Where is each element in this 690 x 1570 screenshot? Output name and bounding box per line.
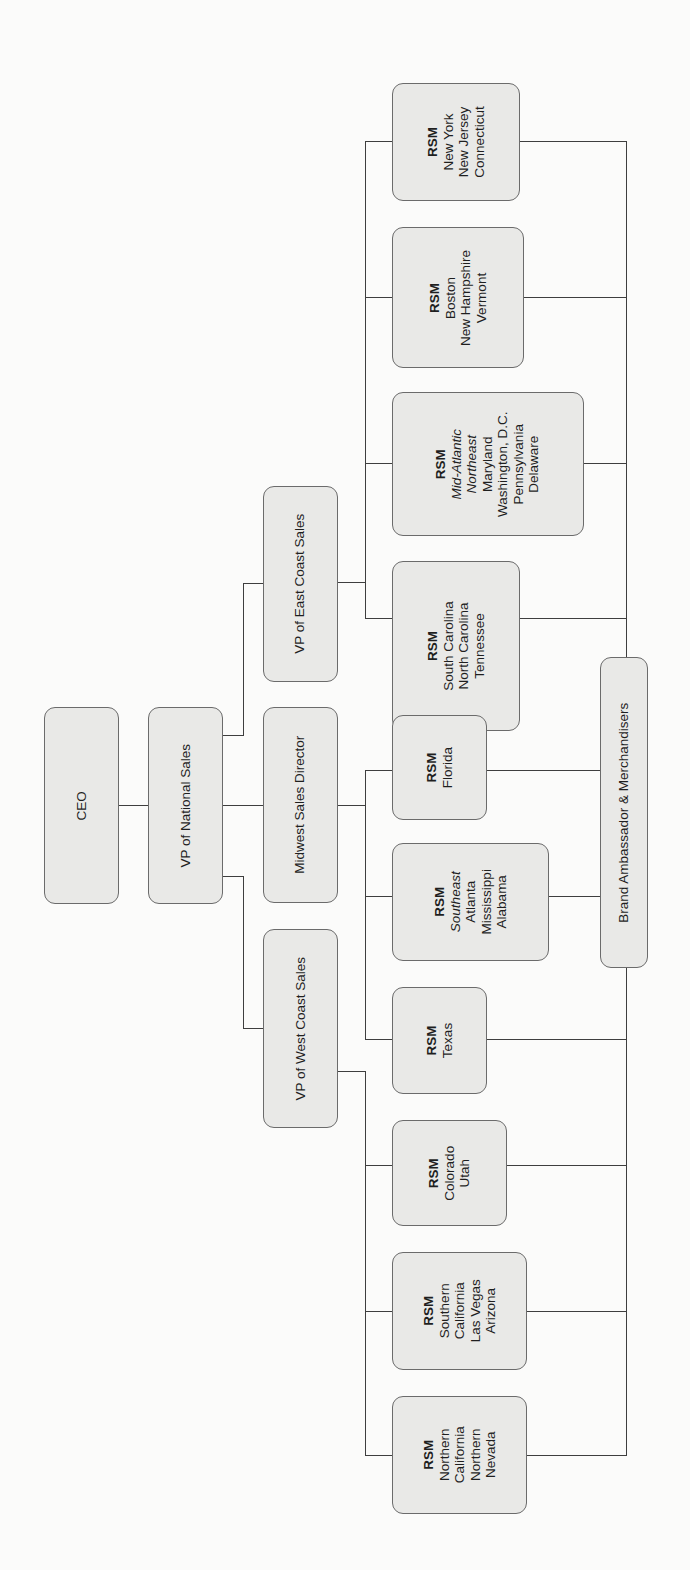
rsm-colorado-box: RSM Colorado Utah <box>392 1120 507 1226</box>
connector-national-east-v <box>243 583 244 736</box>
region-line: Las Vegas <box>467 1279 483 1342</box>
rsm-socal-box: RSM Southern California Las Vegas Arizon… <box>392 1252 527 1370</box>
region-line: Tennessee <box>472 601 488 690</box>
connector-midwest-out <box>338 805 365 806</box>
connector-east-out <box>338 582 365 583</box>
rsm-title: RSM <box>425 601 441 690</box>
region-line: Southern <box>436 1279 452 1342</box>
region-line: California <box>452 1279 468 1342</box>
region-line: Washington, D.C. <box>496 411 512 516</box>
brand-label: Brand Ambassador & Merchandisers <box>616 703 632 923</box>
rsm-texas-box: RSM Texas <box>392 987 487 1094</box>
region-line: Arizona <box>483 1279 499 1342</box>
region-line: Florida <box>439 747 455 788</box>
connector-west-colorado <box>365 1165 392 1166</box>
region-line: Northern <box>436 1426 452 1483</box>
rsm-title: RSM <box>421 1279 437 1342</box>
connector-norcal-brand <box>527 1455 626 1456</box>
rsm-title: RSM <box>432 869 448 934</box>
connector-east-boston <box>365 297 392 298</box>
region-line: New Jersey <box>456 106 472 177</box>
connector-midwest-texas <box>365 1039 392 1040</box>
connector-florida-brand <box>487 770 600 771</box>
rsm-florida-box: RSM Florida <box>392 715 487 820</box>
connector-west-out <box>338 1071 365 1072</box>
region-line: South Carolina <box>441 601 457 690</box>
region-line: Vermont <box>474 249 490 345</box>
region-line: California <box>452 1426 468 1483</box>
connector-national-west <box>223 876 243 877</box>
rsm-sc-box: RSM South Carolina North Carolina Tennes… <box>392 561 520 731</box>
region-line: Colorado <box>442 1146 458 1201</box>
connector-texas-brand <box>487 1039 626 1040</box>
connector-colorado-brand <box>507 1165 626 1166</box>
connector-national-west-v <box>243 876 244 1028</box>
midwest-label: Midwest Sales Director <box>293 736 309 874</box>
vp-west-label: VP of West Coast Sales <box>293 957 309 1101</box>
rsm-title: RSM <box>426 1146 442 1201</box>
rsm-ny-box: RSM New York New Jersey Connecticut <box>392 83 520 201</box>
region-line: Delaware <box>527 411 543 516</box>
connector-midwest-florida <box>365 770 392 771</box>
connector-west-socal <box>365 1311 392 1312</box>
midwest-bus <box>365 770 366 1040</box>
rsm-boston-box: RSM Boston New Hampshire Vermont <box>392 227 524 368</box>
region-line: North Carolina <box>456 601 472 690</box>
rsm-midatlantic-box: RSM Mid-Atlantic Northeast Maryland Wash… <box>392 392 584 536</box>
ceo-label: CEO <box>74 791 90 820</box>
rsm-title: RSM <box>425 106 441 177</box>
org-chart: CEO VP of National Sales VP of East Coas… <box>0 0 690 1570</box>
rsm-title: RSM <box>421 1426 437 1483</box>
region-line: Northern <box>467 1426 483 1483</box>
midwest-box: Midwest Sales Director <box>263 707 338 903</box>
region-line: New Hampshire <box>458 249 474 345</box>
connector-midatl-brand <box>584 463 626 464</box>
connector-socal-brand <box>527 1311 626 1312</box>
region-name: Northeast <box>465 411 481 516</box>
vp-east-label: VP of East Coast Sales <box>293 514 309 654</box>
rsm-southeast-box: RSM Southeast Atlanta Mississippi Alabam… <box>392 843 549 961</box>
rsm-title: RSM <box>424 1023 440 1058</box>
region-line: Atlanta <box>463 869 479 934</box>
brand-ambassador-box: Brand Ambassador & Merchandisers <box>600 657 648 968</box>
rsm-norcal-box: RSM Northern California Northern Nevada <box>392 1396 527 1514</box>
connector-east-ny <box>365 141 392 142</box>
ceo-box: CEO <box>44 707 119 904</box>
vp-west-box: VP of West Coast Sales <box>263 929 338 1128</box>
region-line: Connecticut <box>471 106 487 177</box>
rsm-title: RSM <box>434 411 450 516</box>
vp-national-box: VP of National Sales <box>148 707 223 904</box>
connector-boston-brand <box>524 297 626 298</box>
connector-national-east <box>223 735 243 736</box>
connector-west-in <box>243 1028 263 1029</box>
rsm-title: RSM <box>424 747 440 788</box>
region-line: Maryland <box>480 411 496 516</box>
connector-ny-brand <box>520 141 626 142</box>
connector-east-sc <box>365 618 392 619</box>
connector-west-norcal <box>365 1455 392 1456</box>
region-line: Boston <box>443 249 459 345</box>
region-line: New York <box>440 106 456 177</box>
connector-midwest-southeast <box>365 896 392 897</box>
region-line: Mississippi <box>478 869 494 934</box>
west-bus <box>365 1071 366 1456</box>
region-name: Southeast <box>447 869 463 934</box>
region-line: Texas <box>440 1023 456 1058</box>
region-line: Alabama <box>494 869 510 934</box>
region-line: Nevada <box>483 1426 499 1483</box>
east-bus <box>365 141 366 619</box>
region-line: Utah <box>457 1146 473 1201</box>
connector-sc-brand <box>520 618 626 619</box>
rsm-title: RSM <box>427 249 443 345</box>
vp-national-label: VP of National Sales <box>178 744 194 868</box>
connector-east-in <box>243 583 263 584</box>
connector-national-midwest <box>223 805 263 806</box>
connector-southeast-brand <box>549 896 600 897</box>
region-line: Pennsylvania <box>511 411 527 516</box>
connector-east-midatl <box>365 463 392 464</box>
vp-east-box: VP of East Coast Sales <box>263 486 338 682</box>
region-name: Mid-Atlantic <box>449 411 465 516</box>
connector-ceo-vp-national <box>119 805 148 806</box>
